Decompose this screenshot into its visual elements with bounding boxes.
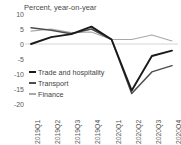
y-axis-tick-label: -5: [2, 56, 24, 63]
legend-item[interactable]: Trade and hospitality: [29, 67, 104, 77]
y-axis-tick-label: -20: [2, 101, 24, 108]
legend-color-swatch: [29, 82, 36, 84]
legend-item-label: Finance: [38, 90, 64, 99]
x-axis-tick-label: 2019Q4: [94, 104, 101, 144]
legend-item-label: Transport: [38, 79, 69, 88]
x-axis-tick-label: 2019Q2: [54, 104, 61, 144]
legend-color-swatch: [29, 71, 36, 73]
legend-item-label: Trade and hospitality: [38, 68, 104, 77]
x-axis-tick-label: 2020Q2: [135, 104, 142, 144]
legend-item[interactable]: Finance: [29, 89, 104, 99]
y-axis-tick-label: -10: [2, 71, 24, 78]
x-axis-tick-label: 2020Q1: [115, 104, 122, 144]
y-axis: 1050-5-10-15-20: [0, 0, 24, 145]
y-axis-tick-label: 5: [2, 26, 24, 33]
chart-container: Percent, year-on-year 1050-5-10-15-20 20…: [0, 0, 181, 145]
legend-color-swatch: [29, 93, 36, 94]
x-axis-tick-label: 2019Q3: [74, 104, 81, 144]
x-axis: 2019Q12019Q22019Q32019Q42020Q12020Q22020…: [25, 104, 178, 145]
legend-item[interactable]: Transport: [29, 78, 104, 88]
x-axis-tick-label: 2020Q4: [175, 104, 181, 144]
y-axis-tick-label: -15: [2, 86, 24, 93]
x-axis-tick-label: 2020Q3: [155, 104, 162, 144]
y-axis-tick-label: 10: [2, 11, 24, 18]
chart-legend: Trade and hospitalityTransportFinance: [29, 67, 104, 100]
x-axis-tick-label: 2019Q1: [34, 104, 41, 144]
chart-title: Percent, year-on-year: [24, 3, 97, 12]
y-axis-tick-label: 0: [2, 41, 24, 48]
